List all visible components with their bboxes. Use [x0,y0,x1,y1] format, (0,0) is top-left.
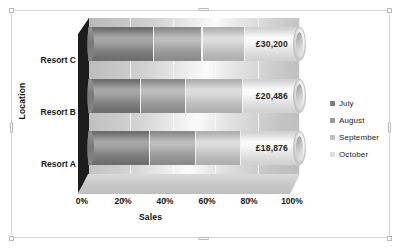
cylinder-left-cap [87,79,94,113]
resize-handle-top-left[interactable] [9,8,14,13]
cylinder-end-cap-inner [296,136,303,160]
cylinder-left-cap [87,131,94,165]
chart-legend[interactable]: July August September October [330,95,392,163]
axis-category-resort-c: Resort C [24,55,76,65]
clipped-heading-text [60,0,260,5]
x-tick-label-20: 20% [106,196,140,206]
segment-body [88,131,149,165]
plot-area[interactable]: £30,200 £20,486 [78,18,300,193]
legend-label-september: September [339,133,379,142]
legend-label-october: October [339,150,368,159]
segment-body [186,79,242,113]
legend-item-july[interactable]: July [330,95,392,112]
cylinder-left-cap [87,27,94,61]
bar-resort-c[interactable]: £30,200 [88,27,300,61]
legend-label-july: July [339,99,354,108]
bar-segment-july-resort-a[interactable] [88,131,150,165]
x-tick-label-80: 80% [232,196,266,206]
cylinder-end-cap [293,131,306,165]
axis-category-resort-b: Resort B [24,107,76,117]
legend-label-august: August [339,116,365,125]
x-tick-label-0: 0% [65,196,99,206]
bar-segment-august-resort-b[interactable] [141,79,186,113]
x-axis-title: Sales [0,212,351,222]
bar-segment-august-resort-c[interactable] [154,27,203,61]
bar-segment-september-resort-b[interactable] [186,79,243,113]
resize-handle-bottom-right[interactable] [387,236,392,241]
bar-segment-july-resort-c[interactable] [88,27,154,61]
bar-segment-october-resort-b[interactable]: £20,486 [243,79,300,113]
x-tick-label-100: 100% [275,196,309,206]
bar-segment-september-resort-a[interactable] [196,131,241,165]
cylinder-end-cap-inner [296,84,303,108]
resize-handle-top-right[interactable] [387,8,392,13]
resize-handle-middle-left[interactable] [10,122,13,133]
data-label-resort-a: £18,876 [256,143,288,153]
bar-segment-october-resort-a[interactable]: £18,876 [241,131,300,165]
bar-segment-august-resort-a[interactable] [150,131,197,165]
x-tick-label-40: 40% [148,196,182,206]
resize-handle-bottom-middle[interactable] [198,237,209,240]
legend-item-september[interactable]: September [330,129,392,146]
data-label-resort-c: £30,200 [256,39,288,49]
legend-swatch-icon-september [330,135,335,140]
chart-object[interactable]: £30,200 £20,486 [0,0,401,251]
segment-body [203,27,244,61]
resize-handle-top-middle[interactable] [198,8,209,11]
cylinder-end-cap [293,79,306,113]
segment-body [88,79,140,113]
data-label-resort-b: £20,486 [256,91,288,101]
legend-swatch-icon-july [330,101,335,106]
bar-resort-a[interactable]: £18,876 [88,131,300,165]
axis-category-resort-a: Resort A [24,159,76,169]
legend-swatch-icon-august [330,118,335,123]
legend-item-august[interactable]: August [330,112,392,129]
resize-handle-bottom-left[interactable] [9,236,14,241]
segment-body [88,27,153,61]
legend-item-october[interactable]: October [330,146,392,163]
bar-segment-july-resort-b[interactable] [88,79,141,113]
bar-segment-october-resort-c[interactable]: £30,200 [245,27,300,61]
y-axis-title: Location [17,71,27,131]
chart-floor [78,174,300,196]
bar-resort-b[interactable]: £20,486 [88,79,300,113]
x-tick-label-60: 60% [190,196,224,206]
bar-segment-september-resort-c[interactable] [203,27,245,61]
cylinder-end-cap [293,27,306,61]
segment-body [196,131,240,165]
legend-swatch-icon-october [330,152,335,157]
cylinder-end-cap-inner [296,32,303,56]
segment-body [154,27,202,61]
segment-body [141,79,185,113]
segment-body [150,131,196,165]
